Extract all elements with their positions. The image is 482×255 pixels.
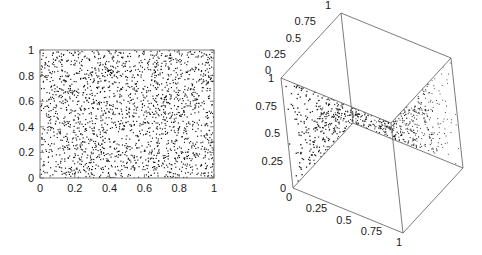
cube-edge-top-front <box>281 78 391 123</box>
y-tick-label: 1 <box>28 44 34 56</box>
x-tick-label: 0.2 <box>67 182 82 194</box>
y-axis-tick-labels: 00.20.40.60.81 <box>19 44 34 184</box>
y-tick-label-3d: 0.75 <box>256 100 277 112</box>
z-tick-label: 0.25 <box>265 48 286 60</box>
cube-edge-vertical-left <box>281 78 293 188</box>
y-tick-label: 0.2 <box>19 146 34 158</box>
x-tick-label-3d: 0.25 <box>306 202 327 214</box>
cube-edge-vertical-right <box>451 58 463 168</box>
cube-edge-bottom-right <box>403 168 463 233</box>
y-axis-tick-labels-3d: 10.750.50.250 <box>256 72 286 194</box>
y-tick-label: 0.8 <box>19 70 34 82</box>
left-panel-2d-scatter: 00.20.40.60.81 00.20.40.60.81 <box>19 44 217 194</box>
cube-edge-bottom-left <box>293 123 353 188</box>
x-tick-label-3d: 0 <box>286 191 292 203</box>
cube-edge-top-right <box>391 58 451 123</box>
y-tick-label-3d: 0.5 <box>265 127 280 139</box>
y-tick-label-3d: 1 <box>268 72 274 84</box>
x-axis-tick-labels: 00.20.40.60.81 <box>37 182 217 194</box>
figure-canvas: 00.20.40.60.81 00.20.40.60.81 00.250.50.… <box>0 0 482 255</box>
x-tick-label: 0.4 <box>102 182 117 194</box>
plot-svg: 00.20.40.60.81 00.20.40.60.81 00.250.50.… <box>0 0 482 255</box>
cube-edge-top-back <box>341 13 451 58</box>
x-tick-label-3d: 1 <box>396 236 402 248</box>
cube-edge-vertical-back <box>341 13 353 123</box>
scatter-points-3d <box>285 23 459 223</box>
y-tick-label-3d: 0.25 <box>262 155 283 167</box>
x-tick-label: 0.8 <box>172 182 187 194</box>
z-axis-tick-labels: 00.250.50.751 <box>265 0 331 76</box>
scatter-points-2d <box>40 50 215 179</box>
cube-edge-vertical-front <box>391 123 403 233</box>
z-tick-label: 1 <box>325 0 331 11</box>
y-tick-label: 0 <box>28 172 34 184</box>
x-tick-label-3d: 0.75 <box>361 225 382 237</box>
x-axis-tick-labels-3d: 00.250.50.751 <box>286 191 402 248</box>
x-tick-label: 0.6 <box>137 182 152 194</box>
x-tick-label: 0 <box>37 182 43 194</box>
right-panel-3d-scatter: 00.250.50.751 10.750.50.250 00.250.50.75… <box>256 0 463 248</box>
y-tick-label: 0.6 <box>19 95 34 107</box>
z-tick-label: 0.75 <box>295 15 316 27</box>
cube-wireframe <box>281 13 463 233</box>
y-tick-label: 0.4 <box>19 121 34 133</box>
x-tick-label-3d: 0.5 <box>336 214 351 226</box>
z-tick-label: 0.5 <box>286 32 301 44</box>
x-tick-label: 1 <box>211 182 217 194</box>
